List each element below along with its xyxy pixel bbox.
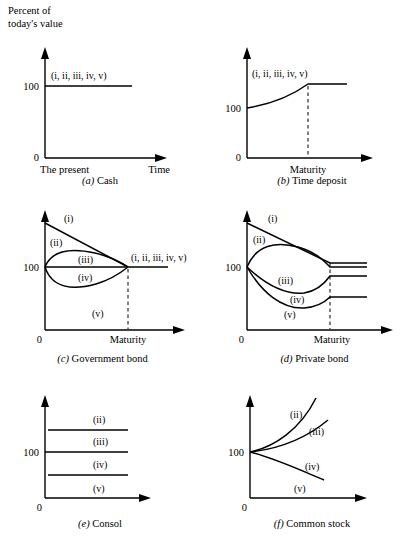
panel-e-series-ii-label: (ii) <box>93 414 105 426</box>
panel-d-private-bond: 100 0 (i) (ii) (iii) (iv) (v) Maturity <box>212 205 417 340</box>
panel-a-ytick-0: 0 <box>34 152 39 163</box>
panel-c-x-arrowhead <box>173 326 185 334</box>
panel-d-series-i-label: (i) <box>268 213 277 225</box>
panel-e-caption-letter: (e) <box>78 518 90 529</box>
panel-a-caption-text: Cash <box>97 175 118 186</box>
panel-d-series-ii-label: (ii) <box>253 234 265 246</box>
panel-d-ytick-100: 100 <box>225 262 241 273</box>
panel-f-ytick-0: 0 <box>242 502 247 513</box>
panel-f-series-v-label: (v) <box>294 483 306 495</box>
panel-f-series-iii-label: (iii) <box>309 426 324 438</box>
panel-b-y-arrowhead <box>243 47 251 59</box>
y-axis-label: Percent of today's value <box>8 4 63 30</box>
panel-c-xtick-maturity: Maturity <box>110 334 147 345</box>
panel-f-ytick-100: 100 <box>228 447 244 458</box>
panel-c-ytick-0: 0 <box>37 334 42 345</box>
panel-d-series-iii <box>247 267 367 293</box>
panel-a-ytick-100: 100 <box>23 81 39 92</box>
panel-d-ytick-0: 0 <box>239 334 244 345</box>
panel-b-ytick-100: 100 <box>225 103 241 114</box>
panel-c-y-arrowhead <box>41 210 49 222</box>
panel-a-cash: 100 0 (i, ii, iii, iv, v) The present Ti… <box>0 42 200 162</box>
panel-c-series-v-label: (v) <box>92 308 104 320</box>
panel-c-converge-label: (i, ii, iii, iv, v) <box>131 252 186 264</box>
panel-c-caption-letter: (c) <box>57 353 69 364</box>
panel-d-x-arrowhead <box>381 326 393 334</box>
panel-d-series-iv-label: (iv) <box>290 294 304 306</box>
figure-root: Percent of today's value 100 0 (i, ii, i… <box>0 0 417 542</box>
panel-e-y-arrowhead <box>41 395 49 407</box>
panel-b-time-deposit: 100 0 (i, ii, iii, iv, v) Maturity <box>212 42 412 162</box>
panel-c-caption-text: Government bond <box>72 353 148 364</box>
panel-b-series-label: (i, ii, iii, iv, v) <box>252 68 307 80</box>
panel-a-xlabel-right: Time <box>148 164 170 175</box>
panel-b-ytick-0: 0 <box>236 152 241 163</box>
panel-b-caption-letter: (b) <box>277 175 289 186</box>
panel-d-xtick-maturity: Maturity <box>314 334 351 345</box>
panel-c-ytick-100: 100 <box>23 262 39 273</box>
panel-c-caption: (c) Government bond <box>0 353 205 364</box>
panel-d-y-arrowhead <box>243 210 251 222</box>
panel-d-series-v-label: (v) <box>284 309 296 321</box>
panel-a-y-arrowhead <box>41 47 49 59</box>
panel-f-series-ii-label: (ii) <box>290 409 302 421</box>
panel-d-series-iv <box>247 267 367 308</box>
panel-f-caption: (f) Common stock <box>212 518 412 529</box>
panel-d-caption: (d) Private bond <box>212 353 417 364</box>
panel-c-series-iv-label: (iv) <box>78 272 92 284</box>
panel-e-caption: (e) Consol <box>0 518 200 529</box>
panel-e-x-arrowhead <box>139 494 151 502</box>
panel-a-caption: (a) Cash <box>0 175 200 186</box>
panel-a-xlabel-left: The present <box>40 164 89 175</box>
panel-e-ytick-100: 100 <box>23 447 39 458</box>
panel-b-series-curve <box>247 84 347 108</box>
panel-d-series-iii-label: (iii) <box>278 275 293 287</box>
panel-e-ytick-0: 0 <box>37 502 42 513</box>
panel-d-caption-letter: (d) <box>280 353 292 364</box>
panel-f-caption-letter: (f) <box>274 518 284 529</box>
panel-a-caption-letter: (a) <box>82 175 94 186</box>
panel-c-series-iii-label: (iii) <box>78 254 93 266</box>
panel-a-x-arrowhead <box>155 154 167 162</box>
panel-f-series-ii <box>250 398 316 452</box>
panel-b-x-arrowhead <box>361 154 373 162</box>
panel-f-y-arrowhead <box>246 395 254 407</box>
panel-c-series-i-label: (i) <box>64 213 73 225</box>
panel-c-series-ii-label: (ii) <box>50 237 62 249</box>
panel-f-caption-text: Common stock <box>286 518 350 529</box>
panel-b-xtick-maturity: Maturity <box>290 164 327 175</box>
panel-f-series-iv-label: (iv) <box>305 461 319 473</box>
panel-a-series-label: (i, ii, iii, iv, v) <box>51 70 106 82</box>
panel-d-caption-text: Private bond <box>295 353 348 364</box>
panel-e-series-v-label: (v) <box>93 483 105 495</box>
panel-e-caption-text: Consol <box>92 518 122 529</box>
panel-f-common-stock: 100 0 (ii) (iii) (iv) (v) <box>212 390 412 510</box>
panel-e-series-iv-label: (iv) <box>93 459 107 471</box>
panel-b-caption-text: Time deposit <box>292 175 347 186</box>
panel-f-x-arrowhead <box>355 494 367 502</box>
panel-b-caption: (b) Time deposit <box>212 175 412 186</box>
panel-c-government-bond: 100 0 (i) (ii) (iii) (iv) (v) (i, ii, ii… <box>0 205 205 340</box>
panel-e-series-iii-label: (iii) <box>93 436 108 448</box>
panel-e-consol: 100 0 (ii) (iii) (iv) (v) <box>0 390 200 510</box>
